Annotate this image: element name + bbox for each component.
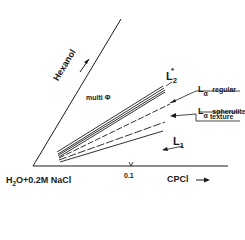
l-alpha-regular-label: Lα regular [198,79,236,97]
texture-label: texture [210,113,233,120]
cpcl-axis-label: CPCl [167,175,189,184]
l-alpha-regular-line [59,104,170,158]
origin-label: H2O+0.2M NaCl [6,176,71,187]
tick-label: 0.1 [124,172,134,179]
tick-mark [129,162,133,166]
l2-star-label: L2* [166,69,180,85]
l1-label: L1 [173,136,184,150]
multi-phase-label: multi Φ [86,94,110,101]
